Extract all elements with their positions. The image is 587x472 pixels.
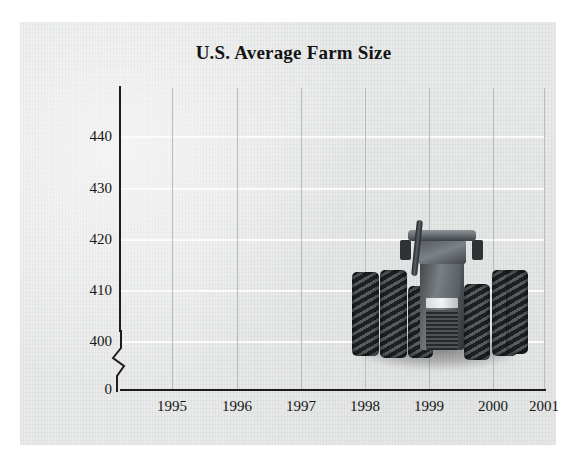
- y-tick-labels: 440 430 420 410 400 0: [62, 0, 112, 472]
- gridline-vertical-1995: [172, 88, 173, 390]
- y-axis-line: [119, 86, 121, 332]
- gridline-vertical-1997: [301, 88, 302, 390]
- gridline-vertical-1996: [237, 88, 238, 390]
- x-tick-label-1998: 1998: [335, 398, 395, 415]
- tractor-wheel-left-outer: [352, 272, 379, 356]
- x-tick-label-1997: 1997: [271, 398, 331, 415]
- x-tick-label-1999: 1999: [399, 398, 459, 415]
- x-tick-label-1995: 1995: [142, 398, 202, 415]
- tractor-engine: [426, 310, 458, 350]
- y-tick-label-400: 400: [66, 333, 112, 350]
- tractor-wheel-left-inner: [380, 270, 407, 358]
- gridline-horizontal-440: [120, 136, 545, 138]
- tractor-cab-window: [418, 240, 466, 264]
- tractor-icon: [346, 212, 528, 372]
- tractor-mirror-left: [400, 240, 411, 260]
- x-tick-label-2001: 2001: [514, 398, 574, 415]
- y-tick-label-420: 420: [66, 231, 112, 248]
- y-tick-label-440: 440: [66, 128, 112, 145]
- chart-root: U.S. Average Farm Size: [0, 0, 587, 472]
- y-tick-label-410: 410: [66, 282, 112, 299]
- tractor-mirror-right: [472, 240, 483, 260]
- tractor-wheel-right-front: [464, 284, 490, 360]
- y-tick-label-430: 430: [66, 180, 112, 197]
- y-tick-label-0: 0: [66, 381, 112, 398]
- gridline-vertical-2001: [544, 88, 545, 390]
- tractor-wheel-right-outer: [506, 270, 528, 354]
- tractor-grille: [426, 298, 458, 308]
- gridline-horizontal-430: [120, 188, 545, 190]
- x-axis-line: [120, 389, 546, 391]
- x-tick-label-1996: 1996: [207, 398, 267, 415]
